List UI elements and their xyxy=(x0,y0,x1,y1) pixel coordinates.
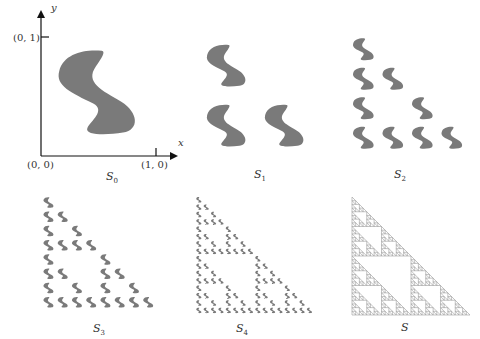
x-tick-label: (1, 0) xyxy=(141,159,168,170)
shape-s-limit xyxy=(352,197,470,315)
shape-s4 xyxy=(196,197,312,313)
caption-s4: S4 xyxy=(236,322,248,337)
caption-s2: S2 xyxy=(394,168,406,183)
shape-s3 xyxy=(43,197,153,307)
figure-canvas xyxy=(0,0,480,339)
origin-label: (0, 0) xyxy=(27,159,54,170)
caption-s: S xyxy=(401,321,409,336)
y-tick-label: (0, 1) xyxy=(13,32,40,43)
y-axis-arrow-icon xyxy=(37,10,45,18)
axes-s0 xyxy=(41,16,172,156)
x-axis-label: x xyxy=(178,137,184,148)
caption-s0: S0 xyxy=(106,170,118,185)
shape-s1 xyxy=(207,45,304,147)
shape-s2 xyxy=(353,38,462,148)
shape-s0 xyxy=(59,50,135,134)
x-axis-arrow-icon xyxy=(170,152,178,160)
caption-s1: S1 xyxy=(254,168,266,183)
caption-s3: S3 xyxy=(93,322,105,337)
y-axis-label: y xyxy=(51,2,57,13)
